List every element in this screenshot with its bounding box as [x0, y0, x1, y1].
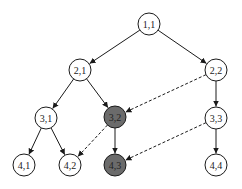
node-label: 4,4 — [210, 160, 223, 171]
node-label: 3,1 — [40, 113, 53, 124]
node-3-1: 3,1 — [35, 107, 57, 129]
node-3-2: 3,2 — [104, 106, 126, 128]
node-label: 4,1 — [18, 160, 31, 171]
node-1-1: 1,1 — [138, 13, 160, 35]
edge-3-1-to-4-1 — [29, 128, 41, 155]
node-label: 4,3 — [109, 160, 122, 171]
node-4-3: 4,3 — [104, 154, 126, 176]
edges-layer — [29, 30, 216, 160]
edge-3-2-to-4-2 — [78, 125, 108, 157]
node-4-4: 4,4 — [205, 154, 227, 176]
edge-2-2-to-3-2 — [125, 75, 206, 113]
node-2-2: 2,2 — [205, 59, 227, 81]
node-label: 3,2 — [109, 112, 122, 123]
node-4-2: 4,2 — [59, 154, 81, 176]
node-4-1: 4,1 — [13, 154, 35, 176]
node-label: 1,1 — [143, 19, 156, 30]
node-label: 4,2 — [64, 160, 77, 171]
edge-3-3-to-4-3 — [125, 123, 206, 161]
edge-1-1-to-2-1 — [90, 30, 140, 64]
node-label: 2,1 — [74, 65, 87, 76]
node-label: 3,3 — [210, 113, 223, 124]
edge-3-1-to-4-2 — [51, 128, 65, 155]
tree-diagram: 1,12,12,23,13,23,34,14,24,34,4 — [0, 0, 242, 189]
node-label: 2,2 — [210, 65, 223, 76]
node-2-1: 2,1 — [69, 59, 91, 81]
edge-2-1-to-3-2 — [87, 79, 109, 108]
edge-2-1-to-3-1 — [53, 79, 74, 109]
nodes-layer: 1,12,12,23,13,23,34,14,24,34,4 — [13, 13, 227, 176]
edge-1-1-to-2-2 — [158, 30, 206, 63]
node-3-3: 3,3 — [205, 107, 227, 129]
